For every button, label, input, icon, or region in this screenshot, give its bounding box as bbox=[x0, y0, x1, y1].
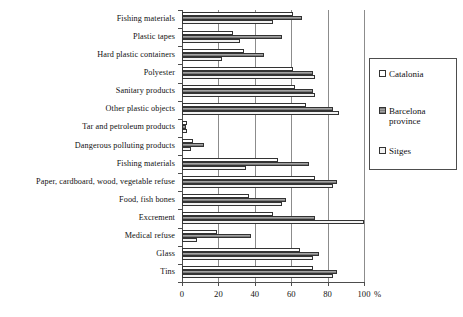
plot-area: 020406080100 % bbox=[182, 10, 364, 282]
y-axis-tick bbox=[178, 246, 182, 247]
x-axis-tick-label: 20 bbox=[205, 289, 231, 299]
gridline bbox=[291, 10, 292, 282]
x-axis-tick bbox=[364, 282, 365, 286]
legend-entry: Sitges bbox=[379, 146, 411, 156]
y-axis-tick bbox=[178, 119, 182, 120]
x-axis-tick bbox=[182, 282, 183, 286]
y-axis-tick bbox=[178, 228, 182, 229]
y-axis-tick bbox=[178, 155, 182, 156]
y-axis-tick bbox=[178, 28, 182, 29]
category-label: Tar and petroleum products bbox=[82, 122, 175, 131]
y-axis-tick bbox=[178, 264, 182, 265]
bar bbox=[182, 111, 339, 115]
legend-entry: Catalonia bbox=[379, 69, 424, 79]
legend-entry: Barcelona province bbox=[379, 106, 425, 126]
x-axis-unit-label: % bbox=[374, 289, 381, 299]
gridline bbox=[328, 10, 329, 282]
x-axis-tick-label: 0 bbox=[169, 289, 195, 299]
category-label: Dangerous polluting products bbox=[75, 141, 175, 150]
y-axis-tick bbox=[178, 209, 182, 210]
x-axis-tick-label: 80 bbox=[315, 289, 341, 299]
category-label: Food, fish bones bbox=[119, 195, 175, 204]
legend-label: Catalonia bbox=[389, 69, 424, 79]
legend-swatch-gray bbox=[379, 107, 386, 114]
legend-label: Sitges bbox=[389, 146, 411, 156]
bar bbox=[182, 93, 315, 97]
category-label: Hard plastic containers bbox=[97, 50, 175, 59]
category-label: Medical refuse bbox=[125, 231, 175, 240]
category-label: Glass bbox=[156, 249, 175, 258]
category-label: Tins bbox=[160, 267, 175, 276]
bar bbox=[182, 39, 240, 43]
bar bbox=[182, 147, 191, 151]
category-label: Excrement bbox=[139, 213, 175, 222]
x-axis-tick-label: 40 bbox=[242, 289, 268, 299]
y-axis-tick bbox=[178, 191, 182, 192]
bar bbox=[182, 238, 197, 242]
y-axis-tick bbox=[178, 173, 182, 174]
x-axis-tick bbox=[328, 282, 329, 286]
y-axis-tick bbox=[178, 10, 182, 11]
bar bbox=[182, 202, 282, 206]
bar bbox=[182, 20, 273, 24]
x-axis-tick bbox=[218, 282, 219, 286]
legend: CataloniaBarcelona provinceSitges bbox=[369, 58, 457, 170]
bar bbox=[182, 274, 333, 278]
bar bbox=[182, 220, 364, 224]
category-label: Other plastic objects bbox=[106, 104, 175, 113]
legend-swatch-light bbox=[379, 147, 386, 154]
legend-swatch-white bbox=[379, 70, 386, 77]
y-axis-tick bbox=[178, 137, 182, 138]
y-axis-tick bbox=[178, 83, 182, 84]
bar bbox=[182, 129, 187, 133]
x-axis-tick bbox=[291, 282, 292, 286]
category-label: Polyester bbox=[144, 68, 175, 77]
y-axis-tick bbox=[178, 64, 182, 65]
bar bbox=[182, 166, 246, 170]
bar bbox=[182, 75, 315, 79]
x-axis-tick bbox=[255, 282, 256, 286]
category-label: Fishing materials bbox=[117, 159, 175, 168]
legend-label: Barcelona province bbox=[389, 106, 425, 126]
category-label: Paper, cardboard, wood, vegetable refuse bbox=[36, 177, 175, 186]
x-axis-line bbox=[182, 282, 364, 283]
category-label: Fishing materials bbox=[117, 14, 175, 23]
category-label: Plastic tapes bbox=[133, 32, 175, 41]
bar bbox=[182, 256, 313, 260]
gridline bbox=[364, 10, 365, 282]
y-axis-tick bbox=[178, 46, 182, 47]
category-label: Sanitary products bbox=[116, 86, 175, 95]
x-axis-tick-label: 60 bbox=[278, 289, 304, 299]
bar bbox=[182, 184, 333, 188]
bar-chart: Fishing materialsPlastic tapesHard plast… bbox=[0, 0, 463, 317]
bar bbox=[182, 57, 222, 61]
category-axis-labels: Fishing materialsPlastic tapesHard plast… bbox=[0, 0, 179, 317]
y-axis-tick bbox=[178, 101, 182, 102]
gridline bbox=[255, 10, 256, 282]
